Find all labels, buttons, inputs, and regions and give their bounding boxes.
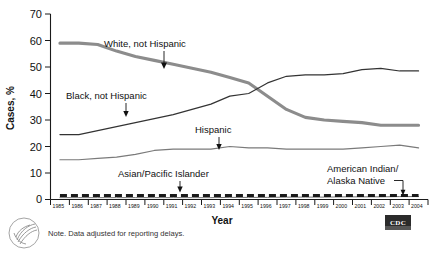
xtick-label-1991: 1991 [166,203,178,209]
ytick-label-10: 10 [30,167,42,179]
y-axis-title: Cases, % [5,86,16,130]
series-label-black-not-hispanic: Black, not Hispanic [66,90,147,101]
ytick-label-40: 40 [30,88,42,100]
xtick-label-2001: 2001 [355,203,367,209]
series-label-white-not-hispanic: White, not Hispanic [104,38,186,49]
xtick-label-2000: 2000 [336,203,348,209]
ytick-label-60: 60 [30,35,42,47]
x-axis-tick-labels: 1985 1986 1987 1988 1989 1990 1991 1992 … [53,203,423,209]
series-label-american-indian-line2: Alaska Native [327,175,385,186]
series-label-hispanic: Hispanic [195,124,232,135]
xtick-label-2003: 2003 [392,203,404,209]
xtick-label-1995: 1995 [241,203,253,209]
hhs-seal-icon [9,218,39,248]
xtick-label-1997: 1997 [279,203,291,209]
series-line-black-not-hispanic [60,68,419,134]
xtick-label-1999: 1999 [317,203,329,209]
series-line-white-not-hispanic [60,43,419,125]
xtick-label-1989: 1989 [128,203,140,209]
ytick-label-70: 70 [30,8,42,20]
series-label-asian-pacific-islander: Asian/Pacific Islander [118,168,209,179]
ytick-label-0: 0 [36,193,42,205]
ytick-label-20: 20 [30,141,42,153]
xtick-label-1985: 1985 [53,203,65,209]
ytick-label-30: 30 [30,114,42,126]
series-label-american-indian-line1: American Indian/ [327,163,399,174]
cdc-logo-label: CDC [390,219,406,227]
xtick-label-1996: 1996 [260,203,272,209]
xtick-label-2004: 2004 [411,203,423,209]
xtick-label-1990: 1990 [147,203,159,209]
xtick-label-1986: 1986 [71,203,83,209]
xtick-label-1994: 1994 [222,203,234,209]
ytick-label-50: 50 [30,61,42,73]
xtick-label-1987: 1987 [90,203,102,209]
arrow-down-icon-white [161,51,167,69]
xtick-label-1988: 1988 [109,203,121,209]
aids-cases-by-race-line-chart: 70 60 50 40 30 20 10 0 Cases, % [0,0,445,255]
arrow-down-icon-black [123,103,128,117]
xtick-label-1993: 1993 [204,203,216,209]
footnote-text: Note. Data adjusted for reporting delays… [48,229,184,238]
x-axis-ticks [51,200,429,206]
chart-container: 70 60 50 40 30 20 10 0 Cases, % [0,0,445,255]
series-line-hispanic [60,145,419,160]
xtick-label-1992: 1992 [185,203,197,209]
xtick-label-2002: 2002 [373,203,385,209]
y-axis-ticks [45,14,51,200]
xtick-label-1998: 1998 [298,203,310,209]
x-axis-title: Year [211,215,232,226]
arrow-down-icon-asian-pacific-islander [177,181,182,193]
cdc-logo: CDC [385,215,411,230]
